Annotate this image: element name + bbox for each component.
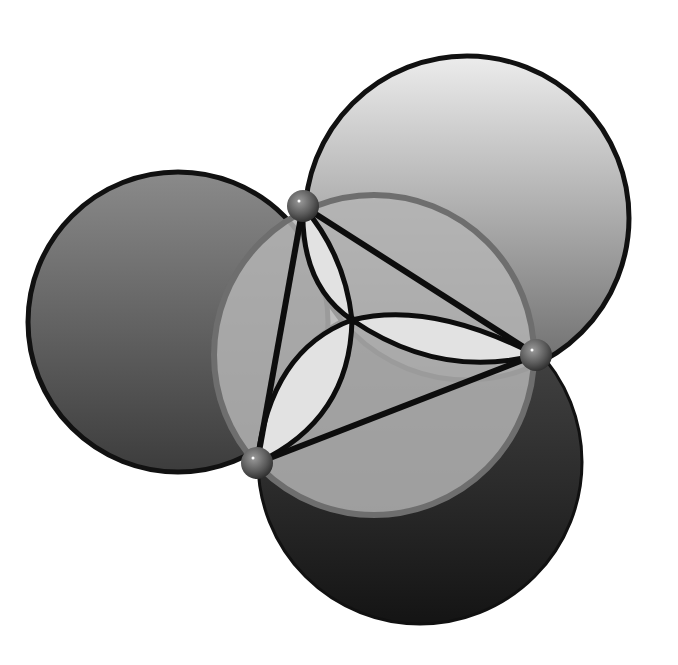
point-b	[520, 339, 552, 371]
point-c	[241, 447, 273, 479]
point-a	[287, 190, 319, 222]
highlight-c	[252, 457, 255, 460]
johnson-circles-diagram: Johnson's three congruent circles	[0, 0, 678, 665]
highlight-b	[531, 349, 534, 352]
highlight-a	[298, 200, 301, 203]
diagram-canvas	[0, 0, 678, 665]
